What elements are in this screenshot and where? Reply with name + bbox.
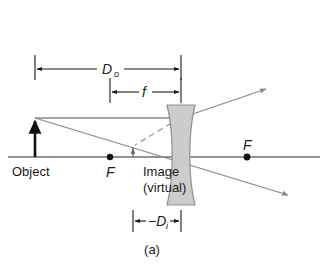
dimension-object-distance: D o: [35, 55, 181, 80]
ray-parallel: [35, 89, 266, 118]
label-object: Object: [12, 164, 50, 179]
dimension-focal-length: f: [110, 78, 181, 103]
diverging-lens-diagram: D o f Object Image (virtual): [0, 0, 327, 265]
label-image-distance: −D: [148, 213, 166, 229]
focal-point-right-dot: [244, 154, 251, 161]
label-object-distance-subscript: o: [114, 69, 119, 79]
label-object-distance: D: [102, 61, 112, 77]
focal-point-left-dot: [107, 154, 113, 160]
label-image-distance-subscript: i: [166, 221, 169, 231]
dimension-image-distance: −D i: [133, 210, 181, 232]
label-image: Image: [143, 164, 179, 179]
label-focal-point-left: F: [106, 164, 116, 180]
label-focal-length: f: [142, 84, 148, 100]
figure-caption: (a): [144, 242, 160, 257]
optics-figure: D o f Object Image (virtual): [0, 0, 327, 265]
label-focal-point-right: F: [243, 137, 253, 153]
label-image-virtual: (virtual): [143, 180, 186, 195]
ray-parallel-refracted: [181, 89, 266, 118]
